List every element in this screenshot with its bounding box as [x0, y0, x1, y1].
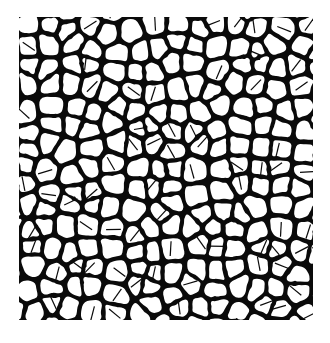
- foam-cell: [152, 160, 165, 177]
- foam-cell: [19, 176, 35, 192]
- foam-cell: [205, 219, 221, 235]
- foam-cell: [127, 158, 149, 177]
- foam-cell: [132, 40, 148, 61]
- foam-cell: [101, 197, 119, 218]
- foam-cell: [80, 17, 100, 36]
- foam-cell: [297, 222, 313, 240]
- foam-cell: [60, 165, 83, 184]
- foam-cell: [254, 56, 269, 72]
- foam-cell: [128, 277, 141, 296]
- foam-cell: [183, 215, 200, 238]
- foam-cell: [149, 314, 169, 320]
- foam-cell: [255, 97, 272, 113]
- foam-cell: [246, 75, 265, 94]
- foam-cell: [192, 21, 209, 38]
- foam-cell: [121, 19, 142, 43]
- foam-cell: [69, 259, 83, 272]
- foam-cell: [292, 36, 313, 55]
- foam-cell: [44, 238, 61, 260]
- foam-cell: [233, 98, 253, 118]
- foam-cell: [233, 58, 252, 73]
- foam-cell: [162, 53, 179, 74]
- foam-cell: [102, 154, 124, 172]
- foam-cell: [225, 72, 243, 95]
- foam-cell: [57, 215, 75, 238]
- foam-cell: [106, 260, 128, 281]
- foam-cell: [19, 219, 22, 234]
- foam-cell: [167, 77, 188, 100]
- foam-cell: [272, 120, 292, 138]
- foam-cell: [103, 63, 125, 81]
- foam-cell: [230, 157, 248, 173]
- foam-cell: [19, 261, 20, 283]
- foam-cell: [82, 40, 102, 58]
- foam-cell: [206, 319, 226, 321]
- foam-cell: [19, 200, 20, 217]
- foam-cell: [168, 17, 188, 31]
- foam-cell: [252, 138, 269, 157]
- foam-cell: [127, 103, 145, 121]
- foam-cell: [85, 259, 103, 275]
- foam-cell: [80, 139, 103, 156]
- foam-cell: [209, 261, 224, 280]
- foam-cell: [187, 316, 204, 320]
- foam-cell: [85, 182, 101, 198]
- foam-cell: [160, 143, 185, 158]
- foam-cell: [299, 17, 313, 34]
- foam-cell: [211, 299, 229, 314]
- foam-cell: [19, 125, 39, 140]
- foam-cell: [128, 64, 142, 80]
- foam-cell: [145, 117, 158, 132]
- foam-cell: [294, 198, 313, 219]
- foam-cell: [103, 284, 130, 304]
- foam-cell: [210, 95, 230, 115]
- foam-cell: [210, 139, 226, 157]
- foam-cell: [108, 96, 126, 115]
- foam-cell: [190, 101, 211, 122]
- foam-cell: [273, 177, 290, 194]
- foam-cell: [181, 273, 201, 295]
- foam-cell: [251, 42, 264, 57]
- foam-cell: [206, 36, 227, 58]
- foam-cell: [291, 178, 310, 197]
- foam-cell: [229, 38, 249, 57]
- foam-cell: [63, 73, 80, 95]
- foam-cell: [68, 98, 86, 115]
- foam-cell: [145, 62, 164, 81]
- foam-cell: [276, 100, 294, 120]
- foam-cell: [102, 112, 123, 133]
- foam-cell: [40, 117, 61, 132]
- foam-cell: [228, 17, 245, 34]
- foam-cell: [19, 280, 38, 301]
- cell-crack-line: [300, 172, 313, 173]
- foam-cell: [204, 283, 226, 298]
- foam-cell: [141, 217, 159, 237]
- foam-cell: [78, 214, 99, 236]
- foam-cell: [228, 117, 251, 136]
- foam-cell: [62, 242, 78, 262]
- foam-cell: [150, 39, 168, 60]
- foam-cell: [296, 121, 313, 140]
- foam-cell: [270, 160, 290, 175]
- foam-cell: [19, 17, 38, 33]
- cell-crack-line: [281, 222, 282, 237]
- foam-cell: [184, 157, 207, 182]
- cell-crack-line: [110, 17, 111, 18]
- foam-cell: [186, 75, 204, 98]
- foam-cell: [269, 241, 286, 257]
- foam-cell: [101, 174, 124, 194]
- foam-cell: [206, 60, 229, 81]
- foam-cell: [82, 74, 101, 98]
- foam-cell: [25, 302, 43, 320]
- foam-cell: [270, 196, 292, 214]
- foam-cell: [103, 17, 124, 21]
- foam-cell: [126, 245, 142, 260]
- foam-cell: [254, 296, 272, 314]
- foam-cell: [225, 222, 243, 237]
- foam-cell: [161, 195, 184, 211]
- foam-cell: [310, 57, 313, 77]
- foam-cell: [36, 202, 55, 216]
- foam-cell: [255, 117, 272, 134]
- foam-cell: [294, 144, 313, 162]
- foam-cell: [252, 178, 269, 196]
